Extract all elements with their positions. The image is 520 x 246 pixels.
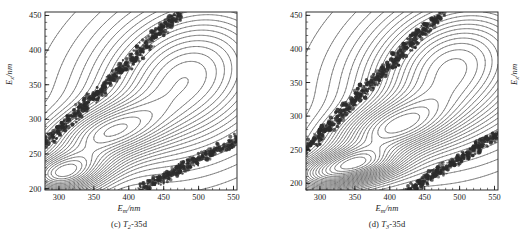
y-tick-label: 350: [290, 79, 302, 88]
x-tick-label: 400: [384, 193, 396, 202]
panel-caption-d: (d) T3-35d: [258, 219, 516, 229]
x-axis-label-d: Em/nm: [258, 203, 516, 213]
x-tick-label: 450: [157, 193, 169, 202]
contour-field: [40, 8, 243, 194]
y-tick-label: 450: [29, 11, 41, 20]
contour-field: [299, 8, 505, 195]
y-axis-label-d-unit: /nm: [509, 64, 519, 77]
rayleigh-scatter-band: [299, 8, 446, 155]
x-tick-label: 550: [488, 193, 500, 202]
rayleigh-scatter-band: [137, 133, 243, 195]
x-tick-label: 350: [349, 193, 361, 202]
panel-caption-c: (c) T2-35d: [0, 219, 258, 229]
x-tick-label: 350: [88, 193, 100, 202]
y-axis-label-d-sub: x: [513, 77, 520, 80]
x-axis-label-d-sub: m: [381, 207, 386, 214]
y-tick-label: 200: [290, 179, 302, 188]
panel-c: 300350400450500550200250300350400450 Ex/…: [0, 0, 258, 246]
x-tick-label: 300: [53, 193, 65, 202]
y-axis-label-c-unit: /nm: [4, 64, 14, 77]
y-tick-label: 350: [29, 81, 41, 90]
panel-caption-c-suffix: -35d: [131, 219, 147, 229]
panel-d: 300350400450500550200250300350400450 Ex/…: [258, 0, 516, 246]
x-axis-label-d-unit: /nm: [385, 203, 398, 213]
panel-caption-d-suffix: -35d: [389, 219, 405, 229]
panel-caption-c-index: (c): [111, 219, 121, 229]
y-tick-label: 200: [29, 185, 41, 194]
y-tick-label: 400: [290, 45, 302, 54]
x-tick-label: 500: [453, 193, 465, 202]
panel-caption-d-sub: 3: [386, 223, 389, 230]
y-tick-label: 400: [29, 46, 41, 55]
rayleigh-scatter-band: [40, 8, 184, 149]
y-axis-label-c: Ex/nm: [4, 69, 14, 85]
x-tick-label: 400: [123, 193, 135, 202]
y-tick-label: 250: [290, 146, 302, 155]
x-tick-label: 300: [314, 193, 326, 202]
x-axis-label-c-sub: m: [123, 207, 128, 214]
y-axis-label-c-sub: x: [8, 77, 15, 80]
x-axis-label-c: Em/nm: [0, 203, 258, 213]
x-tick-label: 550: [227, 193, 239, 202]
y-tick-label: 300: [29, 115, 41, 124]
y-tick-label: 450: [290, 11, 302, 20]
y-axis-label-c-main: E: [4, 80, 14, 85]
x-axis-label-c-unit: /nm: [127, 203, 140, 213]
x-tick-label: 450: [418, 193, 430, 202]
y-axis-label-d-main: E: [509, 80, 519, 85]
y-tick-label: 250: [29, 150, 41, 159]
panel-caption-d-index: (d): [369, 219, 379, 229]
panel-caption-c-sub: 2: [128, 223, 131, 230]
y-axis-label-d: Ex/nm: [509, 69, 519, 85]
x-tick-label: 500: [192, 193, 204, 202]
y-tick-label: 300: [290, 112, 302, 121]
